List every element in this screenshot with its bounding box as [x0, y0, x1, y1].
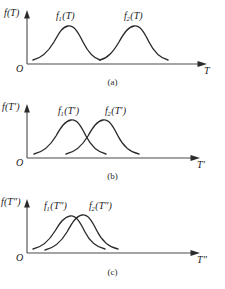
- y-axis-label: f(T″): [1, 197, 21, 207]
- y-axis-label: f(T): [4, 8, 19, 18]
- curve-f2: [45, 215, 118, 250]
- origin-label: O: [16, 64, 23, 74]
- x-axis-label: T′: [197, 160, 205, 170]
- three-panel-density-figure: f(T) O T f1(T) f2(T) (a) f(T′) O T′ f1(T…: [0, 0, 225, 289]
- curve-label-f2: f2(T″): [89, 201, 112, 211]
- panel-c: f(T″) O T″ f1(T″) f2(T″) (c): [0, 186, 225, 289]
- panel-caption-b: (b): [0, 171, 225, 181]
- y-axis-label: f(T′): [2, 102, 20, 112]
- origin-label: O: [16, 158, 23, 168]
- curve-f2: [66, 120, 139, 154]
- curve-label-f2: f2(T): [124, 11, 143, 21]
- y-axis-arrowhead: [24, 199, 30, 208]
- panel-caption-a: (a): [0, 77, 225, 87]
- panel-caption-c: (c): [0, 267, 225, 277]
- origin-label: O: [16, 253, 23, 263]
- panel-a: f(T) O T f1(T) f2(T) (a): [0, 0, 225, 96]
- curve-f1: [33, 26, 100, 60]
- y-axis-arrowhead: [24, 104, 30, 113]
- curve-label-f2: f2(T′): [105, 106, 126, 116]
- x-axis-label: T: [204, 66, 210, 76]
- curve-f1: [33, 216, 105, 249]
- curve-label-f1: f1(T″): [44, 201, 67, 211]
- curve-label-f1: f1(T′): [58, 106, 79, 116]
- y-axis-arrowhead: [24, 10, 30, 19]
- x-axis-label: T″: [197, 255, 207, 265]
- curve-f2: [100, 26, 168, 60]
- curve-label-f1: f1(T): [56, 11, 75, 21]
- panel-b: f(T′) O T′ f1(T′) f2(T′) (b): [0, 92, 225, 188]
